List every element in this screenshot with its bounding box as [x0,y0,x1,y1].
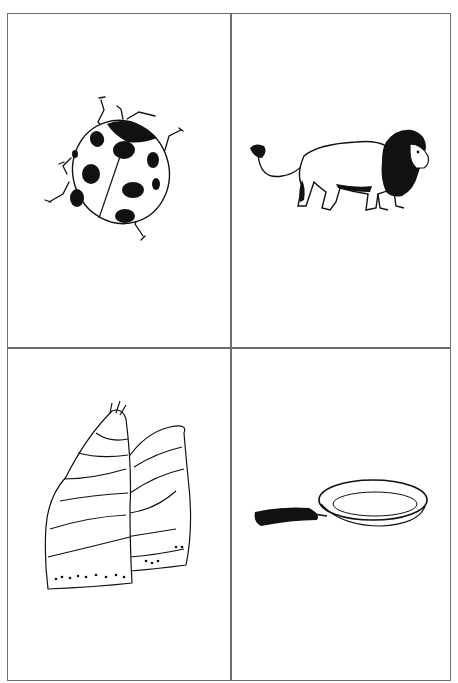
card-frying-pan[interactable]: frying pan [231,349,451,681]
card-ladybug[interactable]: ladybug [8,14,230,347]
bamboo-shoot-icon [26,397,206,607]
lion-icon [246,122,436,217]
card-lion[interactable]: lion [231,14,451,347]
ladybug-icon [41,94,191,244]
frying-pan-icon [251,474,431,534]
picture-card-grid: ladybug [7,13,451,681]
card-bamboo-shoots[interactable]: bamboo shoots [8,349,230,681]
